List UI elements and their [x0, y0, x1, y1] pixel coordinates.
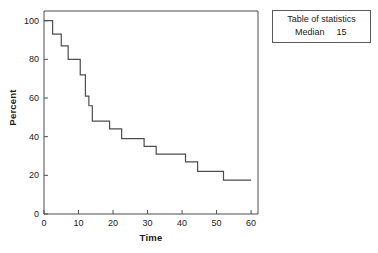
x-axis-tick-label: 10: [74, 218, 84, 228]
y-axis-tick-label: 100: [6, 16, 39, 26]
x-axis-tick-label: 20: [108, 218, 118, 228]
plot-frame: [44, 11, 258, 214]
plot-canvas: [44, 11, 258, 214]
y-axis-tick-label: 40: [6, 132, 39, 142]
x-axis-label-text: Time: [44, 232, 258, 243]
survival-plot-figure: Percent 020406080100 0102030405060 Time …: [0, 0, 378, 253]
statistics-table-row: Median 15: [273, 26, 370, 39]
x-axis-tick-label: 0: [41, 218, 46, 228]
y-axis-tick-label: 0: [6, 209, 39, 219]
survival-step-curve: [44, 21, 251, 181]
statistic-value: 15: [325, 26, 367, 39]
x-axis-tick-label: 40: [177, 218, 187, 228]
y-axis-label: Percent: [2, 0, 22, 214]
y-axis-ticks: [44, 21, 48, 214]
statistics-table: Table of statistics Median 15: [272, 10, 371, 43]
statistic-label: Median: [281, 26, 325, 39]
x-axis-tick-label: 60: [246, 218, 256, 228]
statistics-table-title: Table of statistics: [273, 13, 370, 26]
plot-area: [44, 11, 258, 214]
x-axis-tick-label: 30: [143, 218, 153, 228]
y-axis-tick-label: 60: [6, 93, 39, 103]
x-axis-tick-label: 50: [212, 218, 222, 228]
x-axis-ticks: [44, 210, 251, 214]
y-axis-tick-label: 80: [6, 54, 39, 64]
y-axis-tick-label: 20: [6, 170, 39, 180]
